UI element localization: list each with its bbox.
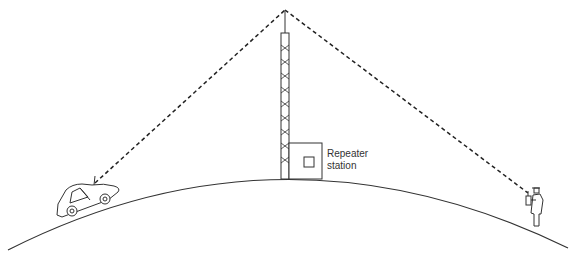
- repeater-station-building: [289, 143, 322, 179]
- car-with-antenna: [57, 176, 119, 217]
- repeater-label-line2: station: [327, 160, 368, 172]
- repeater-tower: [281, 10, 289, 179]
- diagram-canvas: [0, 0, 575, 253]
- repeater-label-line1: Repeater: [327, 148, 368, 160]
- person-with-handheld-radio: [526, 188, 543, 226]
- repeater-station-label: Repeater station: [327, 148, 368, 172]
- signal-path-car-to-tower: [95, 10, 285, 183]
